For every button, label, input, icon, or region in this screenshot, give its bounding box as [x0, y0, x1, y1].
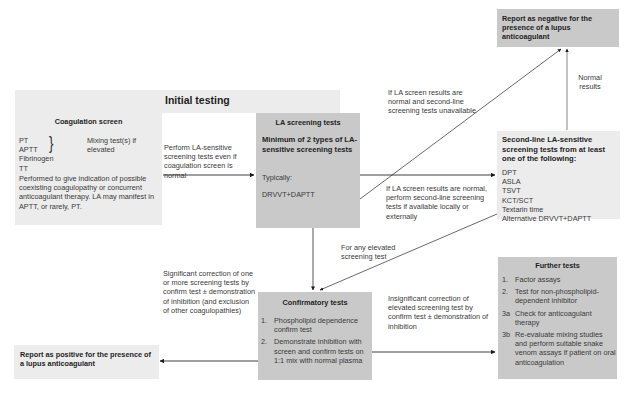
- step-item: 2.Test for non-phospholipid-dependent in…: [502, 287, 616, 305]
- step-item: 3bRe-evaluate mixing studies and perform…: [502, 330, 616, 367]
- initial-testing-band: Initial testing: [15, 90, 340, 113]
- la-normal-unavailable-label: If LA screen results are normal and seco…: [388, 88, 483, 116]
- la-normal-second-line-label: If LA screen results are normal, perform…: [386, 184, 496, 221]
- test-item: APTT: [19, 145, 69, 154]
- test-item: ASLA: [502, 177, 618, 186]
- coagulation-screen-note: Performed to give indication of possible…: [19, 174, 161, 211]
- second-line-test-list: DPT ASLA TSVT KCT/SCT Textarin time Alte…: [502, 168, 618, 223]
- further-tests-steps: 1.Factor assays 2.Test for non-phospholi…: [502, 275, 616, 370]
- further-tests-box: Further tests 1.Factor assays 2.Test for…: [498, 257, 617, 379]
- report-positive-text: Report as positive for the presence of a…: [20, 350, 155, 368]
- normal-results-label: Normal results: [570, 73, 610, 91]
- mixing-test-note: Mixing test(s) if elevated: [87, 136, 157, 154]
- step-item: 1.Factor assays: [502, 275, 616, 284]
- report-negative-box: Report as negative for the presence of a…: [497, 9, 619, 47]
- initial-testing-title: Initial testing: [165, 94, 230, 107]
- perform-la-label: Perform LA-sensitive screening tests eve…: [164, 143, 256, 180]
- test-item: Textarin time: [502, 205, 618, 214]
- test-item: DPT: [502, 168, 618, 177]
- test-item: KCT/SCT: [502, 196, 618, 205]
- coagulation-test-list: PT APTT Fibrinogen TT: [19, 136, 69, 173]
- any-elevated-label: For any elevated screening test: [341, 243, 401, 261]
- insignificant-correction-label: Insignificant correction of elevated scr…: [388, 294, 493, 331]
- typically-label: Typically:: [262, 173, 358, 182]
- typical-tests: DRVVT+DAPTT: [262, 190, 358, 199]
- test-item: Fibrinogen: [19, 154, 69, 163]
- second-line-title: Second-line LA-sensitive screening tests…: [502, 135, 618, 164]
- test-item: TT: [19, 164, 69, 173]
- report-negative-text: Report as negative for the presence of a…: [502, 14, 616, 42]
- step-item: 3aCheck for anticoagulant therapy: [502, 309, 616, 327]
- confirmatory-title: Confirmatory tests: [258, 298, 372, 307]
- la-screening-box: LA screening tests Minimum of 2 types of…: [256, 113, 360, 228]
- brace-icon: }: [49, 132, 53, 154]
- report-positive-box: Report as positive for the presence of a…: [14, 345, 159, 379]
- step-item: 2.Demonstrate inhibition with screen and…: [261, 337, 371, 365]
- significant-correction-label: Significant correction of one or more sc…: [163, 269, 255, 315]
- la-screening-subtitle: Minimum of 2 types of LA-sensitive scree…: [262, 135, 358, 154]
- second-line-box: Second-line LA-sensitive screening tests…: [497, 131, 620, 219]
- test-item: PT: [19, 136, 69, 145]
- test-item: TSVT: [502, 186, 618, 195]
- further-tests-title: Further tests: [498, 261, 617, 270]
- confirmatory-box: Confirmatory tests 1.Phospholipid depend…: [258, 292, 372, 380]
- test-item: Alternative DRVVT+DAPTT: [502, 214, 618, 223]
- step-item: 1.Phospholipid dependence confirm test: [261, 316, 371, 334]
- la-screening-title: LA screening tests: [256, 118, 360, 127]
- coagulation-screen-box: Coagulation screen PT APTT Fibrinogen TT…: [15, 113, 162, 225]
- confirmatory-steps: 1.Phospholipid dependence confirm test 2…: [261, 316, 371, 368]
- coagulation-screen-title: Coagulation screen: [15, 117, 162, 126]
